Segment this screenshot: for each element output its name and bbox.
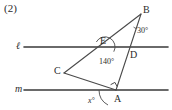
geometry-figure: (2) ℓ m B E D C A 30° 140° x° <box>0 0 172 110</box>
line-label-m: m <box>15 84 22 94</box>
angle-label-140: 140° <box>99 58 114 66</box>
problem-number: (2) <box>4 3 17 14</box>
segment-CA <box>64 73 116 90</box>
point-label-B: B <box>143 5 150 15</box>
figure-canvas <box>0 0 172 110</box>
angle-label-x: x° <box>88 97 95 105</box>
line-label-l: ℓ <box>16 41 20 51</box>
angle-label-30: 30° <box>137 27 148 35</box>
angle-arc-B <box>134 27 137 28</box>
point-label-D: D <box>130 50 137 60</box>
point-label-A: A <box>114 94 121 104</box>
point-label-E: E <box>100 36 106 46</box>
angle-arc-x <box>99 90 108 105</box>
right-angle-marker-A <box>111 82 118 86</box>
point-label-C: C <box>54 66 61 76</box>
